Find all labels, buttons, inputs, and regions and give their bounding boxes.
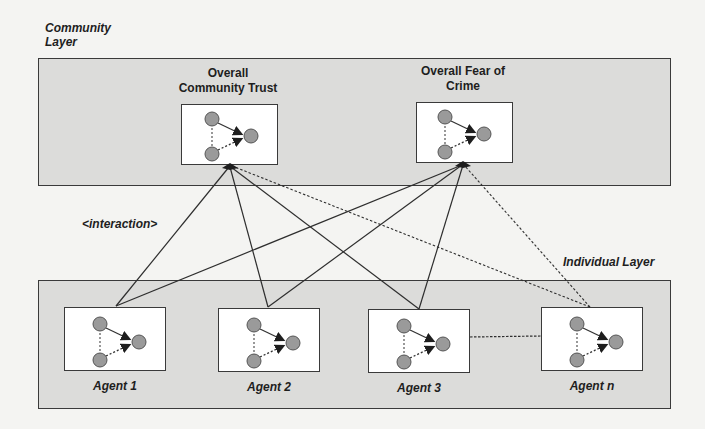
mini-graph-icon [65,308,167,372]
mini-graph-icon [369,310,471,374]
community-layer [38,58,671,186]
mini-graph-icon [417,103,514,164]
community-trust-title-line1: Overall [148,66,308,81]
mini-graph-icon [219,309,321,373]
fear-of-crime-title-line2: Crime [383,79,543,94]
interaction-label: <interaction> [82,217,157,231]
community-trust-title: Overall Community Trust [148,66,308,96]
agent-3-label: Agent 3 [368,381,470,395]
agent-1-label: Agent 1 [64,379,166,393]
agent-2-label: Agent 2 [218,380,320,394]
fear-of-crime-node [416,102,513,163]
community-layer-label: Community Layer [45,21,115,49]
mini-graph-icon [182,105,279,166]
agent-3-node [368,309,470,373]
fear-of-crime-title-line1: Overall Fear of [383,64,543,79]
community-trust-node [181,104,278,165]
community-trust-title-line2: Community Trust [148,81,308,96]
agent-2-node [218,308,320,372]
agent-n-label: Agent n [541,379,643,393]
agent-n-node [541,307,643,371]
community-layer-label-text: Community Layer [45,21,111,49]
agent-1-node [64,307,166,371]
individual-layer-label: Individual Layer [563,255,654,269]
fear-of-crime-title: Overall Fear of Crime [383,64,543,94]
mini-graph-icon [542,308,644,372]
